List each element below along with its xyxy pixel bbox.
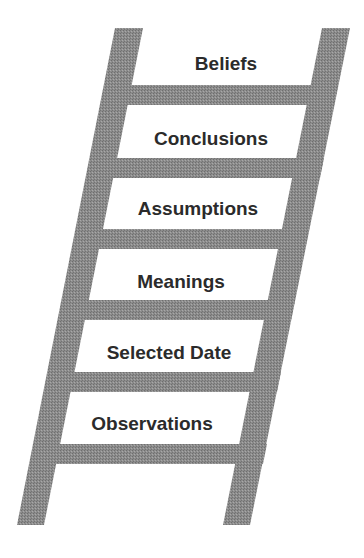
step-label-assumptions: Assumptions — [138, 199, 258, 218]
rung-6 — [52, 444, 267, 464]
step-label-beliefs: Beliefs — [195, 54, 257, 73]
step-label-observations: Observations — [91, 414, 212, 433]
rung-3 — [95, 229, 309, 249]
rung-1 — [124, 85, 338, 105]
step-label-conclusions: Conclusions — [154, 129, 268, 148]
rung-4 — [81, 300, 295, 320]
step-label-selected-date: Selected Date — [107, 343, 232, 362]
step-label-meanings: Meanings — [137, 272, 225, 291]
rung-2 — [109, 158, 324, 178]
rung-5 — [67, 372, 281, 392]
